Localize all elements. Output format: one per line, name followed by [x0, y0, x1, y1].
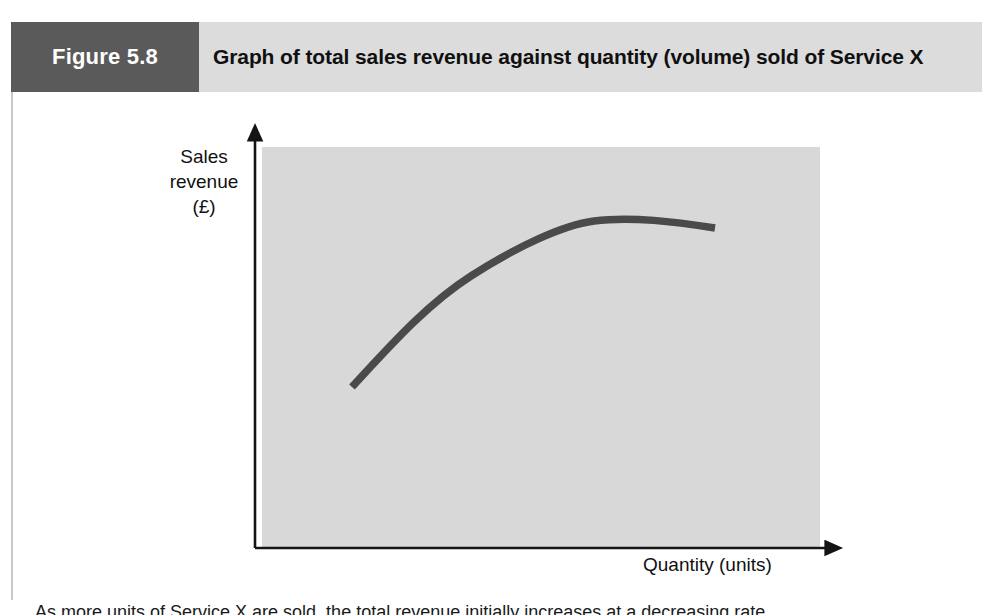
figure-number-block: Figure 5.8	[11, 22, 199, 92]
chart-body: Sales revenue (£) Quantity (units)	[11, 92, 982, 582]
figure-header: Figure 5.8 Graph of total sales revenue …	[11, 22, 982, 92]
y-axis-label-line-3: (£)	[154, 194, 254, 219]
y-axis-label-line-2: revenue	[154, 169, 254, 194]
figure-title-container: Graph of total sales revenue against qua…	[199, 22, 982, 92]
figure-number-label: Figure 5.8	[52, 44, 158, 70]
figure-caption: As more units of Service X are sold, the…	[35, 600, 965, 615]
y-axis-label-line-1: Sales	[154, 144, 254, 169]
x-axis-label: Quantity (units)	[643, 554, 772, 576]
y-axis-label: Sales revenue (£)	[154, 144, 254, 219]
revenue-curve	[352, 219, 715, 387]
figure-title: Graph of total sales revenue against qua…	[213, 44, 923, 70]
